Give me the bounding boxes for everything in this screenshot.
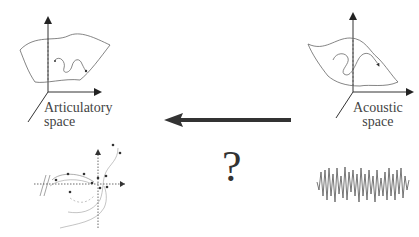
articulatory-label-line2: space [44,115,112,129]
question-mark: ? [222,145,242,189]
acoustic-label-line2: space [353,115,403,129]
mapping-arrow [164,113,291,127]
articulatory-space-label: Articulatory space [44,101,112,129]
acoustic-waveform [317,167,409,202]
vocal-tract-figure [34,144,125,228]
acoustic-label-line1: Acoustic [353,101,403,115]
acoustic-space-label: Acoustic space [353,101,403,129]
articulatory-label-line1: Articulatory [44,101,112,115]
